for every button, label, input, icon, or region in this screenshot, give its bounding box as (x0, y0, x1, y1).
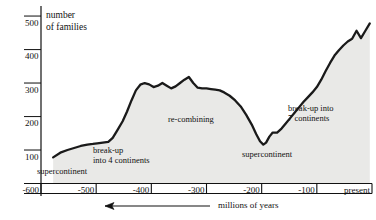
y-axis-title-line2: of families (46, 22, 87, 34)
x-tick-label: -500 (34, 185, 94, 195)
annotation-recombining: re-combining (168, 114, 214, 124)
direction-arrow (105, 203, 210, 210)
annotation-supercontinent-right: supercontinent (242, 149, 292, 159)
x-axis-caption: millions of years (218, 200, 279, 210)
y-tick-label: 400 (25, 51, 39, 61)
y-tick-label: 300 (25, 85, 39, 95)
y-tick-label: 200 (25, 118, 39, 128)
annotation-breakup4-line2: into 4 continents (93, 155, 150, 165)
x-tick-label: -300 (145, 185, 205, 195)
y-tick-label: 100 (25, 152, 39, 162)
annotation-breakup7-line1: break-up into (288, 103, 334, 113)
x-tick-label: -400 (89, 185, 149, 195)
annotation-breakup7-line2: 7 continents (288, 113, 329, 123)
y-axis-ticks (24, 16, 41, 150)
x-tick-label: -600 (0, 185, 39, 195)
annotation-supercontinent-left: supercontinent (37, 166, 87, 176)
annotation-breakup4-line1: break-up (93, 145, 123, 155)
y-tick-label: 500 (25, 18, 39, 28)
x-tick-label: -100 (255, 185, 315, 195)
y-axis-title-line1: number (46, 10, 75, 22)
x-tick-label: -200 (200, 185, 260, 195)
chart-container: number of families 100 200 300 400 500 -… (0, 0, 376, 220)
x-tick-label: present (310, 185, 370, 195)
